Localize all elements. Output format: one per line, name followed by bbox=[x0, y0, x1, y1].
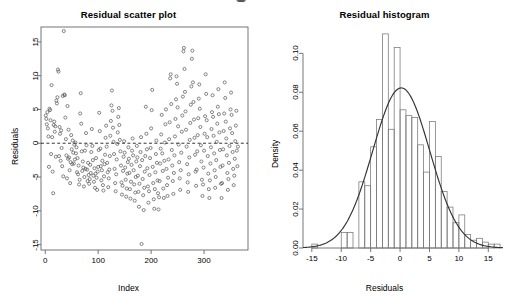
scatter-y-axis-label: Residuals bbox=[10, 128, 20, 165]
scatter-x-tick-label: 200 bbox=[144, 256, 157, 265]
scatter-x-tick-label: 100 bbox=[91, 256, 104, 265]
scatter-y-tick-label: 0 bbox=[31, 141, 40, 145]
histogram-bar bbox=[465, 234, 471, 248]
histogram-x-axis-label: Residuals bbox=[256, 283, 513, 293]
histogram-bars bbox=[312, 34, 500, 248]
histogram-y-axis-label: Density bbox=[270, 140, 280, 168]
scatter-x-tick-label: 300 bbox=[197, 256, 210, 265]
histogram-bar bbox=[418, 145, 424, 248]
histogram-x-tick-label: -5 bbox=[367, 254, 374, 263]
histogram-x-tick-label: 15 bbox=[484, 254, 493, 263]
histogram-y-tick-label: 0.06 bbox=[291, 123, 300, 139]
histogram-bar bbox=[382, 34, 388, 248]
histogram-y-tick-label: 0.08 bbox=[291, 84, 300, 100]
histogram-bar bbox=[377, 120, 383, 248]
histogram-x-tick-label: -15 bbox=[306, 254, 318, 263]
scatter-plot-box bbox=[41, 27, 248, 250]
histogram-x-tick-label: 5 bbox=[427, 254, 431, 263]
histogram-y-tick-label: 0.10 bbox=[291, 46, 300, 62]
scatter-x-axis-label: Index bbox=[0, 283, 257, 293]
histogram-y-tick-label: 0.02 bbox=[291, 201, 300, 217]
histogram-normal-density-curve bbox=[303, 88, 503, 248]
scatter-y-tick-label: -5 bbox=[31, 173, 40, 180]
histogram-bar bbox=[347, 232, 353, 248]
scatter-points bbox=[44, 0, 245, 245]
scatter-y-tick-label: -15 bbox=[31, 239, 40, 251]
scatter-y-tick-label: 5 bbox=[31, 107, 40, 111]
histogram-bar bbox=[435, 157, 441, 248]
scatter-y-tick-label: 10 bbox=[31, 71, 40, 80]
histogram-bar bbox=[447, 207, 453, 248]
histogram-bar bbox=[406, 116, 412, 248]
scatter-y-tick-label: -10 bbox=[31, 205, 40, 217]
histogram-panel: Residual histogram Residuals Density -15… bbox=[256, 0, 513, 301]
histogram-bar bbox=[365, 186, 371, 248]
histogram-bar bbox=[388, 129, 394, 248]
histogram-bar bbox=[424, 172, 430, 248]
histogram-x-tick-label: 0 bbox=[398, 254, 402, 263]
histogram-y-tick-label: 0.04 bbox=[291, 162, 300, 178]
scatter-y-tick-label: 15 bbox=[31, 37, 40, 46]
histogram-bar bbox=[341, 232, 347, 248]
histogram-y-tick-label: 0.00 bbox=[291, 240, 300, 256]
scatter-panel: Residual scatter plot Index Residuals 01… bbox=[0, 0, 257, 301]
histogram-bar bbox=[371, 147, 377, 248]
histogram-x-tick-label: -10 bbox=[335, 254, 347, 263]
histogram-bar bbox=[394, 48, 400, 248]
scatter-x-tick-label: 0 bbox=[43, 256, 47, 265]
histogram-bar bbox=[412, 118, 418, 248]
histogram-bar bbox=[400, 110, 406, 248]
histogram-x-tick-label: 10 bbox=[454, 254, 463, 263]
histogram-bar bbox=[429, 121, 435, 248]
histogram-bar bbox=[441, 192, 447, 248]
residual-diagnostics-figure: Residual scatter plot Index Residuals 01… bbox=[0, 0, 513, 301]
